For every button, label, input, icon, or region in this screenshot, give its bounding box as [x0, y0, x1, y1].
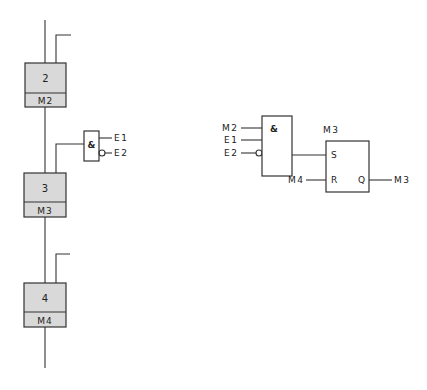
transition-and-gate: & E1 E2 — [56, 131, 128, 173]
input-label-e2: E2 — [114, 148, 128, 158]
sequence-chart: 2 M2 & E1 E2 3 M3 4 M4 — [24, 20, 128, 368]
set-pin-label: S — [331, 150, 338, 160]
function-chart-diagram: 2 M2 & E1 E2 3 M3 4 M4 — [0, 0, 427, 390]
step-action: M2 — [38, 96, 54, 106]
step-action: M3 — [37, 206, 53, 216]
and-symbol: & — [270, 124, 278, 134]
logic-circuit: M2 E1 E2 & M3 S R Q M4 M3 — [222, 116, 411, 192]
output-pin-label: Q — [358, 175, 367, 185]
step-2[interactable]: 2 M2 — [25, 63, 66, 107]
output-label: M3 — [394, 175, 411, 185]
and-symbol: & — [88, 140, 96, 150]
step-number: 2 — [42, 73, 48, 84]
input-label-e1: E1 — [114, 133, 128, 143]
reset-input-label: M4 — [288, 175, 305, 185]
inverter-circle-icon — [256, 150, 262, 156]
input-label-e1: E1 — [224, 135, 238, 145]
inverter-circle-icon — [99, 150, 105, 156]
transition-line — [56, 35, 71, 63]
flipflop-title: M3 — [323, 125, 340, 135]
gate-output-wire — [56, 144, 84, 173]
input-label-m2: M2 — [222, 123, 239, 133]
step-number: 3 — [42, 183, 48, 194]
step-action: M4 — [37, 316, 53, 326]
input-label-e2: E2 — [224, 148, 238, 158]
step-number: 4 — [42, 293, 48, 304]
step-4[interactable]: 4 M4 — [24, 283, 66, 327]
reset-pin-label: R — [331, 175, 339, 185]
transition-line — [56, 254, 70, 283]
step-3[interactable]: 3 M3 — [24, 173, 66, 217]
